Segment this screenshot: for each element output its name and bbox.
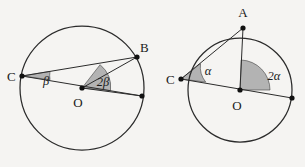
left-point-D-dot: [139, 93, 144, 98]
left-label-beta: β: [42, 74, 50, 88]
left-label-C: C: [7, 69, 16, 84]
left-label-B: B: [140, 40, 149, 55]
left-circle-group: C B O β 2β: [7, 26, 149, 150]
left-segment-O-D: [82, 88, 142, 96]
right-point-C-dot: [178, 76, 183, 81]
right-label-C: C: [166, 72, 175, 87]
left-point-O-dot: [79, 85, 84, 90]
right-point-O-dot: [237, 87, 242, 92]
diagram-canvas: C B O β 2β A C O α 2: [0, 0, 305, 167]
right-label-alpha: α: [205, 64, 212, 78]
right-label-A: A: [238, 5, 248, 20]
right-point-A-dot: [240, 25, 245, 30]
left-point-B-dot: [134, 54, 139, 59]
right-angle-2alpha-wedge: [240, 60, 270, 90]
left-label-O: O: [73, 95, 82, 110]
right-circle-group: A C O α 2α: [166, 5, 295, 142]
right-label-2alpha: 2α: [268, 69, 281, 83]
left-point-C-dot: [19, 73, 24, 78]
geometry-figure: C B O β 2β A C O α 2: [0, 0, 305, 167]
left-label-2beta: 2β: [97, 75, 110, 89]
right-label-O: O: [232, 98, 241, 113]
right-point-D-dot: [289, 95, 294, 100]
right-segment-C-A: [181, 28, 243, 79]
